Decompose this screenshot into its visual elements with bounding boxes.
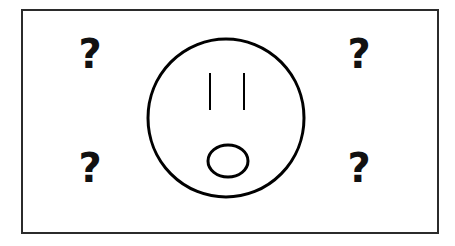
question-mark-top-right: ? xyxy=(347,31,370,77)
confused-face-illustration: ? ? ? ? xyxy=(0,0,455,246)
question-mark-top-left: ? xyxy=(78,31,101,77)
illustration-canvas: ? ? ? ? xyxy=(0,0,455,246)
question-mark-bottom-right: ? xyxy=(347,145,370,191)
background xyxy=(0,0,455,246)
question-mark-bottom-left: ? xyxy=(78,145,101,191)
